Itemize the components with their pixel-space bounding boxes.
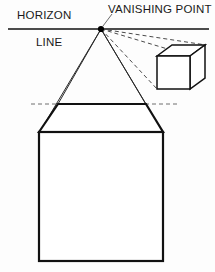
perspective-diagram: HORIZON LINE VANISHING POINT [0,0,215,272]
vanishing-point-label: VANISHING POINT [108,3,212,15]
small-cube [157,45,205,89]
line-label: LINE [36,36,62,48]
horizon-label: HORIZON [17,9,71,21]
large-cube-top-face [39,104,163,132]
vanishing-point-dot[interactable] [98,26,104,32]
label-leader-line [103,14,112,26]
large-cube-front-face [39,132,163,261]
large-cube [39,104,163,261]
ray-to-large-box-back-top-left [58,29,101,104]
ray-to-small-box-back-top-left [101,29,206,45]
ray-to-small-box-front-bottom-left [101,29,158,90]
small-cube-front-face [157,56,190,89]
diagram-canvas: HORIZON LINE VANISHING POINT [0,0,215,272]
ray-to-large-box-back-top-right [101,29,146,104]
